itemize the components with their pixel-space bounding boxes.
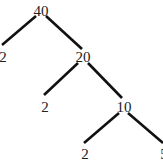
node-2-bottom: 2 xyxy=(81,146,89,162)
edge-10-to-2 xyxy=(84,113,119,143)
node-40: 40 xyxy=(34,3,49,19)
node-2-middle: 2 xyxy=(41,99,49,115)
edge-20-to-10 xyxy=(88,63,122,98)
edge-40-to-2 xyxy=(2,16,36,45)
node-10: 10 xyxy=(117,99,132,115)
edge-10-to-5 xyxy=(128,113,163,143)
factor-tree-diagram: 40 2 20 2 10 2 5 xyxy=(0,0,163,164)
node-5: 5 xyxy=(160,146,163,162)
edge-20-to-2 xyxy=(44,63,78,95)
edge-40-to-20 xyxy=(46,16,82,49)
node-2-left: 2 xyxy=(0,49,7,65)
node-20: 20 xyxy=(76,49,91,65)
